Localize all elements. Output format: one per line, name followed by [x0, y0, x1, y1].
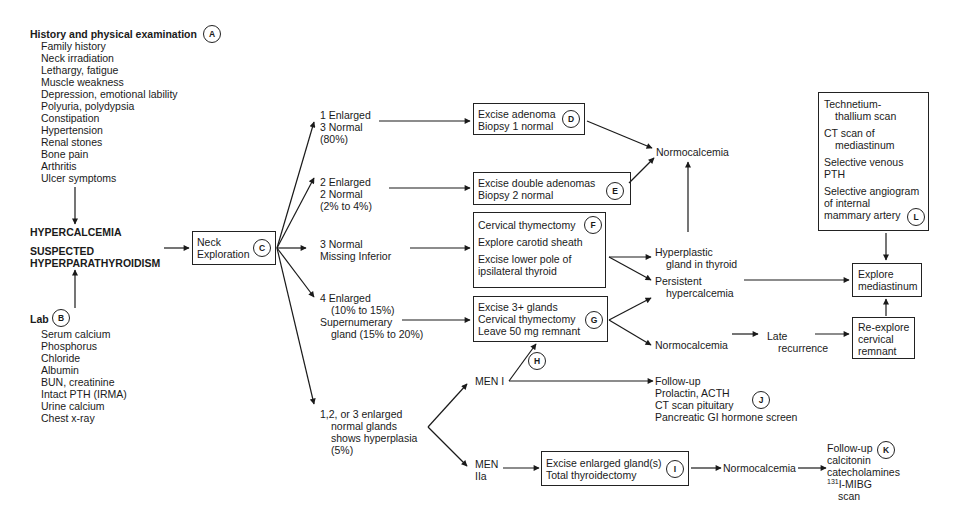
- lab-item: BUN, creatinine: [30, 376, 127, 388]
- label-a-badge: A: [203, 25, 221, 43]
- finding-3-normal: 3 NormalMissing Inferior: [320, 238, 391, 262]
- history-item: Arthritis: [30, 160, 197, 172]
- history-item: Renal stones: [30, 136, 197, 148]
- label-h-badge: H: [528, 352, 546, 370]
- history-item: Polyuria, polydypsia: [30, 100, 197, 112]
- hypercalcemia-label: HYPERCALCEMIA: [30, 226, 122, 238]
- lab-item: Chest x-ray: [30, 412, 127, 424]
- late-recurrence: Laterecurrence: [767, 330, 828, 354]
- explore-mediastinum-box: Exploremediastinum: [852, 263, 922, 297]
- lab-item: Serum calcium: [30, 328, 127, 340]
- label-d-badge: D: [562, 110, 580, 128]
- reexplore-cervical-box: Re-explorecervicalremnant: [852, 317, 915, 359]
- persistent-hypercalcemia: Persistenthypercalcemia: [655, 275, 734, 299]
- history-item: Muscle weakness: [30, 76, 197, 88]
- history-block: History and physical examination Family …: [30, 28, 197, 184]
- box-f-thymectomy: Cervical thymectomy Explore carotid shea…: [473, 212, 606, 288]
- finding-1-enlarged: 1 Enlarged3 Normal(80%): [320, 109, 371, 145]
- box-e-double-adenomas: Excise double adenomasBiopsy 2 normal E: [473, 172, 631, 205]
- label-l-badge: L: [907, 208, 925, 226]
- finding-4-enlarged: 4 Enlarged(10% to 15%)Supernumerarygland…: [320, 292, 423, 340]
- history-item: Depression, emotional lability: [30, 88, 197, 100]
- lab-block: Lab Serum calcium Phosphorus Chloride Al…: [30, 313, 127, 424]
- lab-title: Lab: [30, 313, 49, 325]
- followup-j-block: Follow-upProlactin, ACTHCT scan pituitar…: [655, 375, 797, 423]
- normocalcemia-bottom: Normocalcemia: [723, 462, 796, 474]
- history-item: Bone pain: [30, 148, 197, 160]
- history-item: Constipation: [30, 112, 197, 124]
- suspected-hpt-label: SUSPECTED HYPERPARATHYROIDISM: [30, 245, 160, 269]
- lab-item: Albumin: [30, 364, 127, 376]
- label-j-badge: J: [752, 391, 770, 409]
- label-e-badge: E: [606, 182, 624, 200]
- neck-exploration-box: Neck Exploration C: [192, 231, 276, 265]
- normocalcemia-top: Normocalcemia: [656, 146, 729, 158]
- label-i-badge: I: [666, 460, 684, 478]
- lab-item: Urine calcium: [30, 400, 127, 412]
- label-b-badge: B: [52, 309, 70, 327]
- label-k-badge: K: [877, 441, 895, 459]
- box-l-localization-studies: Technetium-thallium scan CT scan ofmedia…: [818, 92, 929, 231]
- hyperplastic-gland: Hyperplasticgland in thyroid: [655, 246, 737, 270]
- history-item: Family history: [30, 40, 197, 52]
- history-item: Neck irradiation: [30, 52, 197, 64]
- men-1-label: MEN I: [475, 375, 504, 387]
- label-f-badge: F: [584, 216, 602, 234]
- normocalcemia-mid: Normocalcemia: [655, 339, 728, 351]
- neck-line1: Neck: [197, 236, 250, 248]
- finding-hyperplasia: 1,2, or 3 enlargednormal glandsshows hyp…: [320, 408, 417, 456]
- label-g-badge: G: [585, 311, 603, 329]
- flowchart-canvas: History and physical examination Family …: [0, 0, 953, 522]
- box-i-thyroidectomy: Excise enlarged gland(s)Total thyroidect…: [541, 451, 689, 486]
- label-c-badge: C: [253, 239, 271, 257]
- history-title: History and physical examination: [30, 28, 197, 40]
- lab-item: Phosphorus: [30, 340, 127, 352]
- lab-item: Intact PTH (IRMA): [30, 388, 127, 400]
- history-item: Ulcer symptoms: [30, 172, 197, 184]
- lab-item: Chloride: [30, 352, 127, 364]
- finding-2-enlarged: 2 Enlarged2 Normal(2% to 4%): [320, 176, 372, 212]
- history-item: Lethargy, fatigue: [30, 64, 197, 76]
- neck-line2: Exploration: [197, 248, 250, 260]
- men-2a-label: MENIIa: [475, 458, 498, 482]
- history-item: Hypertension: [30, 124, 197, 136]
- box-d-excise-adenoma: Excise adenomaBiopsy 1 normal D: [473, 103, 585, 135]
- box-g-excise-glands: Excise 3+ glandsCervical thymectomyLeave…: [473, 296, 608, 342]
